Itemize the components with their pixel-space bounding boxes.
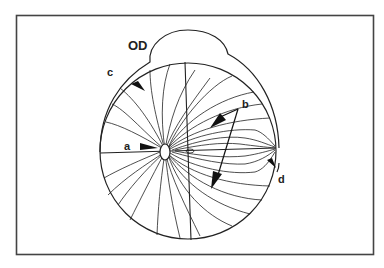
- label-d: d: [278, 173, 285, 185]
- eye-label-od: OD: [128, 38, 148, 53]
- label-b: b: [242, 98, 249, 110]
- optic-disc: [160, 144, 170, 160]
- figure-frame: [17, 16, 374, 255]
- globe-outline-lower: [277, 163, 279, 172]
- arrow-b-lower-head: [211, 171, 222, 189]
- retinal-nerve-fiber-diagram: OD a b c d: [0, 0, 384, 268]
- label-c: c: [107, 66, 113, 78]
- label-a: a: [124, 140, 131, 152]
